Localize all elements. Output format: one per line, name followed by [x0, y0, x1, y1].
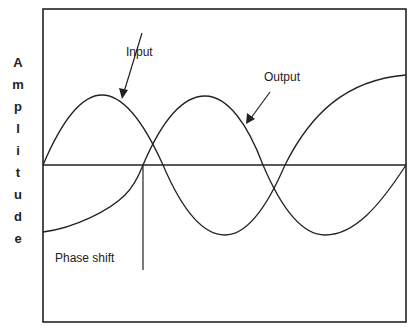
y-label-letter: i	[10, 140, 26, 162]
input-curve	[43, 75, 406, 235]
output-arrow	[251, 92, 270, 118]
y-label-letter: d	[10, 206, 26, 228]
y-label-letter: l	[10, 118, 26, 140]
output-label: Output	[264, 70, 300, 84]
input-arrowhead	[119, 88, 128, 99]
y-label-letter: m	[10, 74, 26, 96]
phase-shift-label: Phase shift	[55, 251, 114, 265]
y-axis-label: A m p l i t u d e	[10, 52, 26, 250]
y-label-letter: A	[10, 52, 26, 74]
y-label-letter: u	[10, 184, 26, 206]
phase-shift-diagram	[0, 0, 420, 334]
y-label-letter: t	[10, 162, 26, 184]
input-arrow	[124, 33, 142, 92]
y-label-letter: p	[10, 96, 26, 118]
input-label: Input	[126, 45, 153, 59]
y-label-letter: e	[10, 228, 26, 250]
